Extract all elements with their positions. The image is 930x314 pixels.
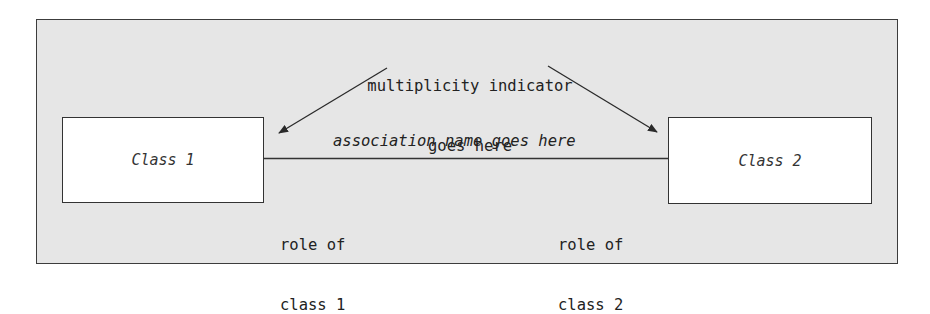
multiplicity-label: multiplicity indicator goes here bbox=[340, 36, 600, 176]
role-label-class-2: role of class 2 bbox=[558, 195, 623, 314]
association-name-label: association name goes here bbox=[333, 131, 576, 151]
role-2-line2: class 2 bbox=[558, 295, 623, 314]
role-label-class-1: role of class 1 bbox=[280, 195, 345, 314]
class-box-1: Class 1 bbox=[62, 117, 264, 203]
multiplicity-label-line1: multiplicity indicator bbox=[340, 76, 600, 96]
class-box-2: Class 2 bbox=[668, 117, 872, 204]
role-1-line1: role of bbox=[280, 235, 345, 255]
role-1-line2: class 1 bbox=[280, 295, 345, 314]
class-name-1: Class 1 bbox=[131, 151, 194, 169]
role-2-line1: role of bbox=[558, 235, 623, 255]
class-name-2: Class 2 bbox=[738, 152, 801, 170]
